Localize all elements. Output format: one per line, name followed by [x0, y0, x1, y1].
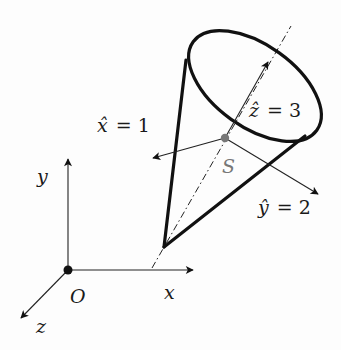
- x-hat-var: x̂: [97, 114, 108, 136]
- origin-label: O: [70, 285, 86, 307]
- cone-right-edge: [164, 136, 305, 247]
- cone-frame-diagram: y x z O S x̂ = 1 ẑ = 3 ŷ = 2: [0, 0, 341, 350]
- z-hat-value: = 3: [267, 99, 301, 121]
- y-hat-axis-arrow: [225, 138, 318, 194]
- y-hat-label: ŷ = 2: [257, 196, 311, 218]
- point-s: [221, 134, 229, 142]
- x-hat-label: x̂ = 1: [97, 114, 150, 136]
- z-hat-var: ẑ: [248, 99, 260, 121]
- world-x-label: x: [164, 281, 175, 303]
- cone-symmetry-axis: [152, 26, 291, 268]
- world-z-axis-arrow: [21, 270, 68, 318]
- world-z-label: z: [35, 315, 47, 337]
- x-hat-axis-arrow: [153, 138, 225, 158]
- diagram-svg: y x z O S x̂ = 1 ẑ = 3 ŷ = 2: [0, 0, 341, 350]
- origin-point: [64, 266, 73, 275]
- z-hat-label: ẑ = 3: [248, 99, 301, 121]
- z-hat-axis-arrow: [225, 62, 268, 138]
- x-hat-value: = 1: [116, 114, 150, 136]
- point-s-label: S: [222, 155, 235, 177]
- world-y-label: y: [36, 165, 48, 187]
- y-hat-var: ŷ: [257, 196, 269, 218]
- y-hat-value: = 2: [277, 196, 311, 218]
